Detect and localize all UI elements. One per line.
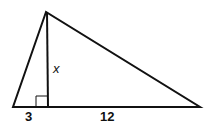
altitude-label: x <box>53 62 60 75</box>
triangle-outline <box>13 12 200 107</box>
left-segment-label: 3 <box>25 110 32 123</box>
right-segment-label: 12 <box>100 110 114 123</box>
altitude-line <box>47 12 48 107</box>
triangle-diagram: x 3 12 <box>0 0 211 129</box>
right-angle-marker <box>36 96 48 107</box>
